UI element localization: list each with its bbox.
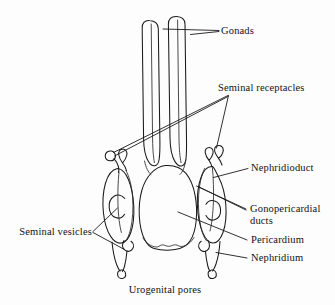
leader-seminal-vesicles-lower — [93, 233, 124, 250]
leader-seminal-vesicles-upper — [93, 208, 118, 232]
gonad-left-inner-crease — [151, 24, 154, 163]
label-seminal-receptacles: Seminal receptacles — [218, 82, 305, 94]
label-nephridium: Nephridium — [251, 252, 303, 264]
pericardium-outline — [139, 165, 196, 250]
leader-nephridioduct — [214, 169, 249, 178]
seminal-vesicle-left-outline — [109, 195, 125, 218]
leader-gonopericardial-right — [199, 187, 246, 210]
label-gonopericardial-ducts-line2: ducts — [250, 215, 273, 227]
nephridium-right-inner-wall — [198, 169, 206, 242]
seminal-receptacle-right-lobe — [205, 147, 213, 167]
seminal-receptacle-right-bulb — [215, 145, 224, 165]
seminal-receptacle-left-stalk — [114, 159, 119, 173]
label-pericardium: Pericardium — [251, 234, 304, 246]
label-seminal-vesicles: Seminal vesicles — [0, 226, 92, 238]
leader-seminal-receptacles-right — [217, 96, 229, 149]
label-nephridioduct: Nephridioduct — [251, 162, 314, 174]
label-urogenital-pores: Urogenital pores — [95, 284, 235, 296]
gonopericardial-duct-right — [199, 241, 210, 252]
nephridioduct-right-tube — [210, 168, 214, 232]
seminal-receptacle-left-lobe — [119, 149, 127, 171]
urogenital-pore-left-opening — [118, 270, 126, 279]
nephridioduct-left-tube — [118, 172, 122, 233]
leader-seminal-receptacles-left-2 — [115, 97, 229, 157]
leader-gonads-upper — [163, 29, 219, 31]
leader-nephridium — [216, 253, 247, 259]
urogenital-pore-right-stalk — [205, 242, 220, 272]
label-gonads: Gonads — [221, 25, 254, 37]
label-gonopericardial-ducts-line1: Gonopericardial — [250, 203, 320, 215]
leader-gonads-lower — [191, 32, 220, 35]
urogenital-diagram-figure: Gonads Seminal receptacles Nephridioduct… — [0, 0, 335, 305]
gonad-right-inner-crease — [178, 20, 181, 163]
